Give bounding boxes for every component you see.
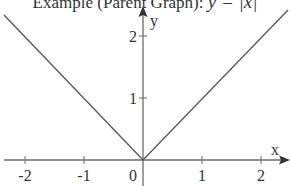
x-tick-label: 2 (257, 167, 265, 184)
plot-area: -2 -1 0 1 2 1 2 x y (0, 0, 290, 186)
abs-function-line (4, 10, 288, 160)
x-axis-label: x (271, 141, 279, 158)
y-tick-label: 1 (129, 90, 137, 107)
chart-figure: Example (Parent Graph): y = |x| -2 -1 0 … (0, 0, 290, 186)
x-tick-label: -2 (18, 167, 31, 184)
x-tick-label: -1 (77, 167, 90, 184)
chart-title-text: Example (Parent Graph): (33, 0, 204, 12)
chart-title: Example (Parent Graph): y = |x| (0, 0, 290, 13)
x-tick-label: 1 (198, 167, 206, 184)
y-tick-label: 2 (129, 28, 137, 45)
x-tick-label: 0 (129, 167, 137, 184)
chart-equation: y = |x| (208, 0, 258, 12)
y-axis-label: y (150, 12, 158, 30)
